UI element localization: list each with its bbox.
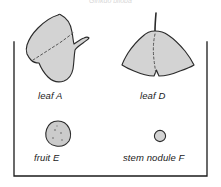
fruit-e-stipple (56, 125, 58, 127)
specimen-fruit-e (46, 121, 71, 146)
specimen-leaf-a (26, 14, 89, 82)
caption-leaf-a: leaf A (38, 90, 63, 101)
botanical-specimen-figure: Ginkgo biloba leaf A leaf D (0, 0, 221, 187)
caption-leaf-d: leaf D (140, 90, 165, 101)
caption-stem-nodule-f: stem nodule F (123, 152, 185, 163)
leaf-d-blade-outline (122, 31, 194, 76)
fruit-e-stipple (60, 132, 62, 134)
caption-fruit-e: fruit E (34, 152, 60, 163)
leaf-d-petiole (155, 13, 156, 31)
fruit-e-stipple (61, 139, 63, 141)
stem-nodule-f-outline (154, 130, 165, 141)
fruit-e-outline (46, 121, 71, 146)
specimen-stem-nodule-f (154, 130, 165, 141)
leaf-a-outline (26, 14, 89, 82)
fruit-e-stipple (52, 137, 54, 139)
fruit-e-stipple (54, 129, 56, 131)
specimen-leaf-d (122, 13, 194, 76)
